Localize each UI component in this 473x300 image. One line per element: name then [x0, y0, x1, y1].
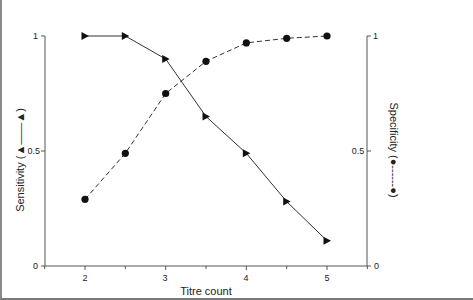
circle-marker-icon [243, 39, 250, 46]
right-tick-labels: 1 0.5 0 [352, 31, 379, 271]
right-axis-title: Specificity (●------●) [388, 102, 400, 197]
triangle-marker-icon [82, 32, 90, 40]
triangle-marker-icon [162, 55, 170, 63]
circle-marker-icon [122, 150, 129, 157]
ytick-left-05: 0.5 [27, 146, 40, 156]
circle-marker-icon [283, 35, 290, 42]
ytick-right-1: 1 [373, 31, 378, 41]
circle-marker-icon [202, 58, 209, 65]
xtick-2: 2 [82, 273, 87, 283]
x-axis-title: Titre count [180, 285, 232, 297]
chart-frame: 1 0.5 0 1 0.5 0 2 3 4 5 Titre count Sens… [0, 0, 473, 300]
left-tick-labels: 1 0.5 0 [27, 31, 40, 271]
sensitivity-specificity-chart: 1 0.5 0 1 0.5 0 2 3 4 5 Titre count Sens… [2, 0, 473, 300]
ytick-right-0: 0 [374, 261, 379, 271]
triangle-marker-icon [122, 32, 129, 40]
axes [41, 36, 371, 266]
x-tick-labels: 2 3 4 5 [82, 273, 329, 283]
left-axis-title: Sensitivity (▲——▲) [14, 108, 26, 212]
xtick-3: 3 [162, 273, 167, 283]
circle-marker-icon [162, 90, 169, 97]
circle-marker-icon [81, 196, 88, 203]
circle-marker-icon [323, 32, 330, 39]
ytick-left-1: 1 [33, 31, 38, 41]
ytick-left-0: 0 [33, 261, 38, 271]
triangle-marker-icon [324, 237, 332, 245]
x-ticks [45, 266, 368, 270]
sensitivity-line [85, 36, 327, 241]
xtick-5: 5 [324, 273, 329, 283]
xtick-4: 4 [243, 273, 248, 283]
ytick-right-05: 0.5 [352, 146, 365, 156]
